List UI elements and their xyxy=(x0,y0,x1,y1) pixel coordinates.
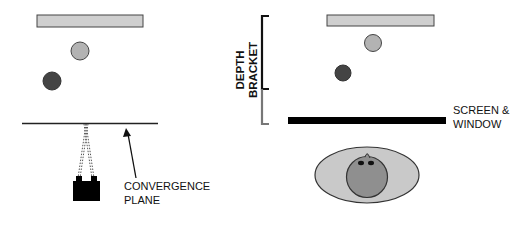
background-plane-bar xyxy=(327,15,434,26)
stereo-depth-diagram: CONVERGENCE PLANE DEPTH BRACKET SCREEN &… xyxy=(0,0,528,230)
far-object-circle xyxy=(71,42,89,60)
screen-label-line2: WINDOW xyxy=(453,118,502,130)
screen-bar xyxy=(288,117,446,124)
right-panel: DEPTH BRACKET SCREEN & WINDOW xyxy=(234,15,510,203)
viewer-head-icon xyxy=(315,147,419,203)
background-plane-bar xyxy=(37,15,143,27)
near-object-circle xyxy=(335,65,351,81)
depth-label-line2: BRACKET xyxy=(247,42,259,98)
diagram-canvas: CONVERGENCE PLANE DEPTH BRACKET SCREEN &… xyxy=(0,0,528,230)
depth-label-line1: DEPTH xyxy=(234,51,246,90)
camera-sight-lines xyxy=(78,124,94,178)
depth-bracket xyxy=(262,16,269,124)
stereo-camera-icon xyxy=(73,176,100,201)
far-object-circle xyxy=(365,35,382,52)
convergence-label-line2: PLANE xyxy=(124,194,160,206)
left-panel: CONVERGENCE PLANE xyxy=(22,15,210,206)
near-object-circle xyxy=(43,72,61,90)
screen-label-line1: SCREEN & xyxy=(453,104,510,116)
convergence-label-line1: CONVERGENCE xyxy=(124,180,210,192)
convergence-arrow-icon xyxy=(123,128,136,178)
depth-bracket-label: DEPTH BRACKET xyxy=(234,42,259,98)
